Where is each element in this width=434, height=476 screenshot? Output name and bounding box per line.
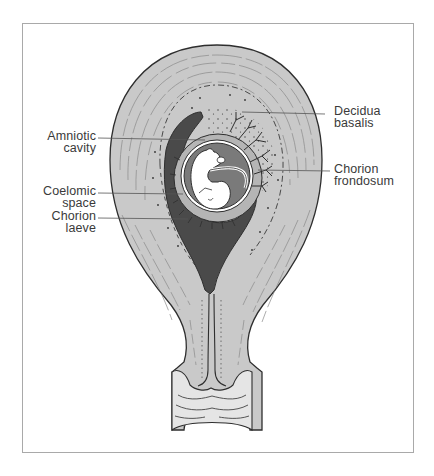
label-chorion-laeve-line2: laeve: [30, 222, 96, 234]
label-chorion-frondosum-line2: frondosum: [334, 175, 414, 187]
label-chorion-frondosum: Chorion frondosum: [334, 163, 414, 187]
label-coelomic-space-line2: space: [30, 197, 96, 209]
label-coelomic-space: Coelomic space: [30, 185, 96, 209]
label-decidua-basalis: Decidua basalis: [334, 105, 409, 129]
label-chorion-laeve: Chorion laeve: [30, 210, 96, 234]
label-amniotic-cavity: Amniotic cavity: [30, 130, 96, 154]
uterus-diagram: [0, 0, 434, 476]
label-amniotic-cavity-line2: cavity: [30, 142, 96, 154]
label-decidua-basalis-line2: basalis: [334, 117, 409, 129]
